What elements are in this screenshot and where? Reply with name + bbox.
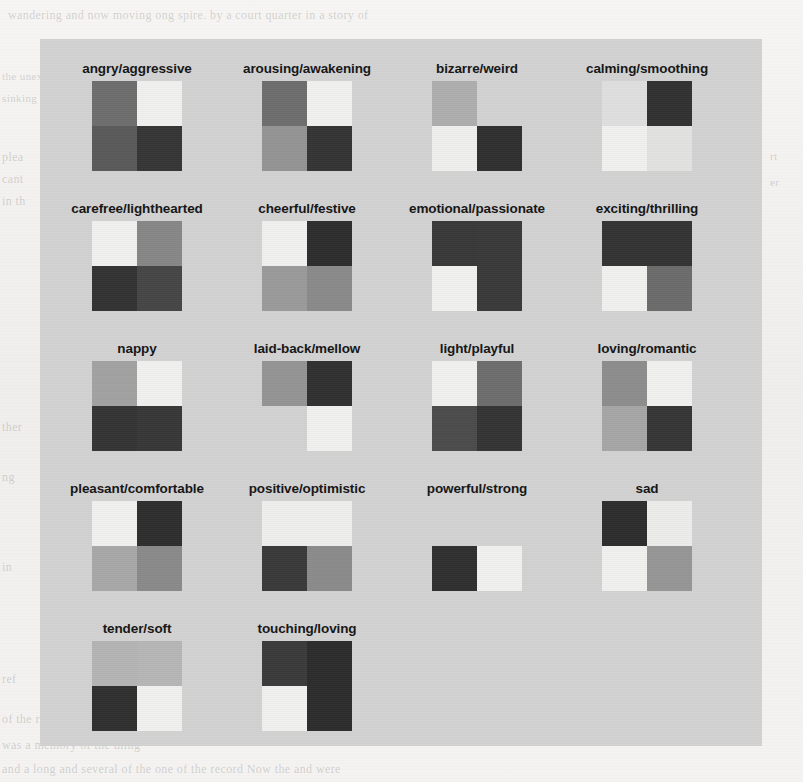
quadrant-block [432,221,522,311]
quadrant-block [92,221,182,311]
quadrant-top-right [137,81,182,126]
quadrant-top-right [647,81,692,126]
quadrant-bottom-left [92,266,137,311]
quadrant-top-right [477,81,522,126]
quadrant-top-right [307,501,352,546]
quadrant-block [432,81,522,171]
quadrant-bottom-right [137,686,182,731]
quadrant-top-right [477,361,522,406]
quadrant-bottom-left [432,126,477,171]
quadrant-top-left [602,221,647,266]
ghost-text: ther [2,420,22,435]
quadrant-bottom-left [602,126,647,171]
quadrant-top-left [432,81,477,126]
ghost-text: wandering and now moving ong spire. by a… [8,8,368,23]
mood-tag-label: laid-back/mellow [222,341,392,356]
quadrant-top-right [137,361,182,406]
quadrant-bottom-left [602,266,647,311]
figure-panel: angry/aggressivearousing/awakeningbizarr… [40,39,762,746]
quadrant-top-right [137,221,182,266]
quadrant-top-right [307,81,352,126]
quadrant-bottom-left [92,406,137,451]
mood-tag-label: loving/romantic [562,341,732,356]
quadrant-block [602,501,692,591]
quadrant-top-right [307,361,352,406]
quadrant-block [92,501,182,591]
quadrant-bottom-right [477,546,522,591]
quadrant-top-right [647,221,692,266]
mood-tag-label: cheerful/festive [222,201,392,216]
ghost-text: ref [2,672,17,687]
mood-tag-label: tender/soft [52,621,222,636]
quadrant-bottom-right [307,406,352,451]
quadrant-top-left [262,81,307,126]
quadrant-top-left [92,221,137,266]
mood-tag-label: sad [562,481,732,496]
mood-tag-label: pleasant/comfortable [52,481,222,496]
quadrant-bottom-right [137,546,182,591]
quadrant-bottom-right [647,406,692,451]
quadrant-bottom-right [307,546,352,591]
mood-tag-label: exciting/thrilling [562,201,732,216]
quadrant-block [602,81,692,171]
quadrant-bottom-right [307,126,352,171]
quadrant-block [262,641,352,731]
quadrant-top-left [262,361,307,406]
ghost-text: plea [2,150,24,165]
quadrant-top-right [477,221,522,266]
quadrant-bottom-left [92,126,137,171]
ghost-text: er [770,176,779,188]
quadrant-bottom-left [92,686,137,731]
mood-tag-label: emotional/passionate [392,201,562,216]
quadrant-block [92,81,182,171]
quadrant-block [602,221,692,311]
quadrant-bottom-left [262,546,307,591]
quadrant-bottom-right [477,266,522,311]
quadrant-block [262,361,352,451]
quadrant-top-left [92,81,137,126]
mood-tag-label: powerful/strong [392,481,562,496]
quadrant-bottom-left [262,266,307,311]
quadrant-bottom-left [432,406,477,451]
quadrant-top-left [602,81,647,126]
quadrant-bottom-left [432,546,477,591]
mood-tag-label: carefree/lighthearted [52,201,222,216]
quadrant-top-right [307,221,352,266]
ghost-text: rt [770,150,778,162]
quadrant-block [262,221,352,311]
quadrant-bottom-right [477,126,522,171]
quadrant-top-left [92,641,137,686]
quadrant-bottom-left [262,686,307,731]
quadrant-block [432,501,522,591]
quadrant-top-right [137,641,182,686]
mood-tag-label: bizarre/weird [392,61,562,76]
quadrant-top-left [602,361,647,406]
quadrant-top-right [137,501,182,546]
mood-tag-label: touching/loving [222,621,392,636]
quadrant-block [262,81,352,171]
quadrant-block [92,641,182,731]
mood-tag-label: positive/optimistic [222,481,392,496]
quadrant-bottom-left [602,406,647,451]
quadrant-top-left [432,361,477,406]
quadrant-bottom-right [137,266,182,311]
quadrant-block [92,361,182,451]
quadrant-block [602,361,692,451]
quadrant-top-left [432,221,477,266]
quadrant-bottom-left [602,546,647,591]
quadrant-bottom-right [647,546,692,591]
quadrant-bottom-right [137,126,182,171]
quadrant-bottom-left [432,266,477,311]
mood-tag-label: angry/aggressive [52,61,222,76]
quadrant-top-left [262,501,307,546]
quadrant-top-left [262,221,307,266]
quadrant-bottom-right [647,126,692,171]
quadrant-top-left [262,641,307,686]
mood-tag-label: calming/smoothing [562,61,732,76]
quadrant-top-right [477,501,522,546]
quadrant-bottom-right [137,406,182,451]
quadrant-bottom-left [92,546,137,591]
quadrant-bottom-right [307,686,352,731]
mood-tag-label: nappy [52,341,222,356]
quadrant-top-left [92,361,137,406]
